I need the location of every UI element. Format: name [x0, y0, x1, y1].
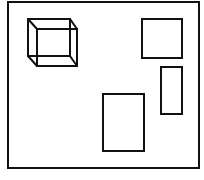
rectangles [103, 19, 182, 151]
cube-edge [28, 19, 37, 29]
wireframe-cube [28, 19, 77, 66]
cube-edge [28, 56, 37, 66]
diagram-canvas [0, 0, 204, 180]
square-top-right [142, 19, 182, 58]
rectangle-bottom-center [103, 94, 144, 151]
cube-edge [70, 19, 77, 29]
cube-edge [70, 56, 77, 66]
tall-rectangle-right [161, 67, 182, 114]
